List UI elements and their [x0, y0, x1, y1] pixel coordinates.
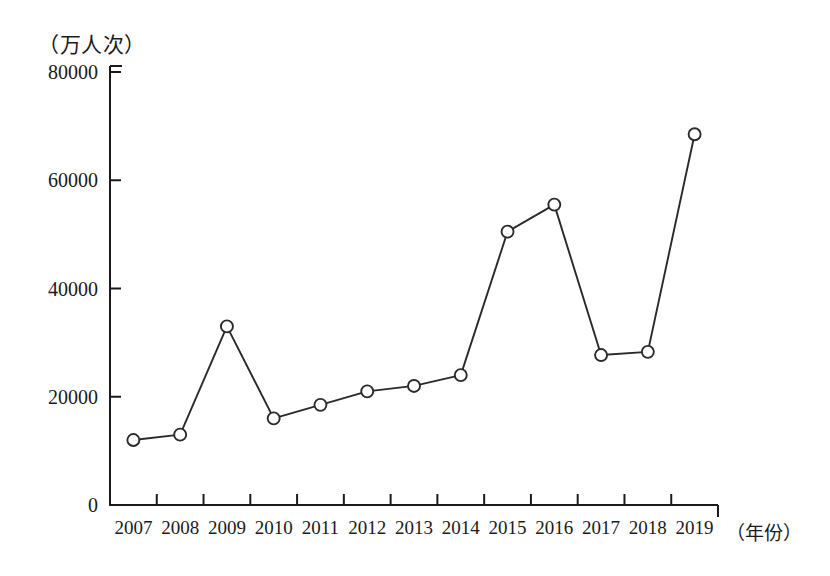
data-point-marker [314, 399, 326, 411]
x-tick-label: 2014 [442, 517, 481, 538]
data-point-marker [221, 320, 233, 332]
x-tick-label: 2007 [114, 517, 152, 538]
data-point-marker [174, 429, 186, 441]
x-tick-label: 2017 [582, 517, 620, 538]
y-tick-label: 40000 [48, 278, 98, 300]
data-point-marker [127, 434, 139, 446]
x-tick-label: 2016 [535, 517, 573, 538]
data-point-marker [268, 412, 280, 424]
y-tick-label: 60000 [48, 169, 98, 191]
x-tick-label: 2018 [629, 517, 667, 538]
series-line-tourist-visits [133, 134, 694, 440]
y-tick-label: 20000 [48, 386, 98, 408]
axis-lines [110, 66, 718, 505]
x-tick-label: 2010 [255, 517, 293, 538]
x-tick-label: 2011 [302, 517, 339, 538]
x-tick-label: 2015 [489, 517, 527, 538]
data-point-marker [548, 199, 560, 211]
line-chart: （万人次） （年份） 020000400006000080000 2007200… [0, 0, 830, 576]
chart-canvas: 020000400006000080000 200720082009201020… [0, 0, 830, 576]
data-point-marker [361, 385, 373, 397]
x-tick-label: 2019 [676, 517, 714, 538]
y-tick-label: 0 [88, 494, 98, 516]
data-point-marker [595, 349, 607, 361]
data-point-marker [408, 380, 420, 392]
data-point-marker [502, 226, 514, 238]
x-tick-label: 2012 [348, 517, 386, 538]
y-tick-label: 80000 [48, 61, 98, 83]
x-tick-label: 2009 [208, 517, 246, 538]
data-point-marker [689, 128, 701, 140]
data-point-marker [455, 369, 467, 381]
axes [110, 66, 718, 517]
x-axis-ticks [157, 494, 671, 505]
series-markers [127, 128, 700, 446]
x-axis-labels: 2007200820092010201120122013201420152016… [114, 517, 713, 538]
data-point-marker [642, 346, 654, 358]
x-tick-label: 2013 [395, 517, 433, 538]
x-tick-label: 2008 [161, 517, 199, 538]
